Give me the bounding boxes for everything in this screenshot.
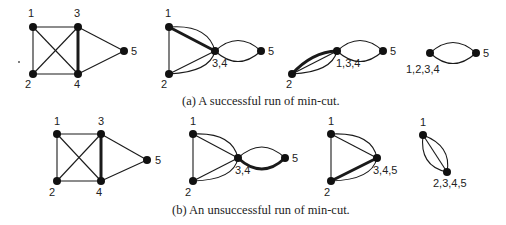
label-node-3-4: 3,4 [212, 57, 227, 69]
label-node-2: 2 [324, 186, 330, 198]
panel-a3-graph: 2 1,3,4 5 [286, 41, 396, 91]
label-node-3-4: 3,4 [235, 164, 250, 176]
label-node-2: 2 [185, 186, 191, 198]
label-node-4: 4 [96, 186, 102, 198]
label-node-5: 5 [131, 45, 137, 57]
label-node-1: 1 [54, 115, 60, 127]
label-node-5: 5 [483, 47, 489, 59]
label-node-5: 5 [155, 154, 161, 166]
panel-b1-graph: 1 3 5 2 4 [49, 115, 161, 198]
panel-b2-graph: 1 3,4 5 2 [185, 115, 298, 198]
label-node-2: 2 [49, 186, 55, 198]
label-node-3-4-5: 3,4,5 [373, 164, 397, 176]
label-node-2-3-4-5: 2,3,4,5 [433, 177, 467, 189]
label-node-1: 1 [328, 115, 334, 127]
panel-a2-graph: 1 3,4 5 2 [161, 7, 274, 90]
node-4 [74, 70, 82, 78]
panel-a4-graph: 1,2,3,4 5 [406, 43, 489, 76]
panel-b3-graph: 1 3,4,5 2 [324, 115, 397, 198]
label-node-5: 5 [390, 45, 396, 57]
label-node-1-3-4: 1,3,4 [336, 57, 360, 69]
panel-b4-graph: 1 2,3,4,5 [419, 116, 467, 189]
stray-dot [18, 61, 20, 63]
label-node-3: 3 [98, 115, 104, 127]
label-node-1-2-3-4: 1,2,3,4 [406, 63, 440, 75]
label-node-1: 1 [28, 7, 34, 19]
label-node-5: 5 [292, 152, 298, 164]
label-node-1: 1 [165, 7, 171, 19]
caption-b: (b) An unsuccessful run of min-cut. [172, 203, 350, 218]
label-node-1: 1 [190, 115, 196, 127]
node-3 [74, 23, 82, 31]
label-node-3: 3 [74, 7, 80, 19]
label-node-4: 4 [74, 78, 80, 90]
label-node-5: 5 [268, 45, 274, 57]
caption-a: (a) A successful run of min-cut. [182, 94, 340, 109]
node-2 [29, 70, 37, 78]
node-1 [29, 23, 37, 31]
label-node-1: 1 [420, 116, 426, 128]
node-5 [120, 47, 128, 55]
label-node-2: 2 [286, 78, 292, 90]
panel-a1-graph: 1 3 5 2 4 [25, 7, 137, 90]
label-node-2: 2 [25, 78, 31, 90]
min-cut-diagram: 1 3 5 2 4 1 3,4 5 2 2 1,3,4 5 [0, 0, 506, 225]
label-node-2: 2 [161, 78, 167, 90]
